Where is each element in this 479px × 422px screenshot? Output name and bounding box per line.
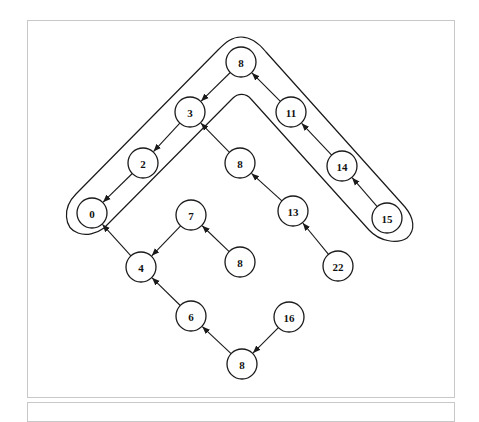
tree-node: 22 (323, 251, 353, 281)
edge-arrow (352, 178, 377, 207)
edge-arrow (302, 123, 332, 155)
edge-arrow (202, 226, 229, 252)
edge-arrow (251, 173, 281, 201)
tree-node: 8 (225, 247, 255, 277)
node-label: 13 (288, 206, 300, 218)
node-label: 4 (138, 262, 144, 274)
tree-node: 2 (128, 148, 158, 178)
tree-node: 4 (126, 252, 156, 282)
node-label: 8 (237, 257, 243, 269)
tree-node: 16 (274, 302, 304, 332)
tree-node: 13 (278, 196, 308, 226)
node-label: 8 (239, 359, 245, 371)
tree-node: 6 (176, 301, 206, 331)
node-label: 11 (286, 107, 296, 119)
node-label: 16 (284, 312, 296, 324)
tree-node: 8 (226, 47, 256, 77)
node-label: 8 (237, 158, 243, 170)
edge-arrow (202, 327, 231, 354)
edge-arrow (253, 328, 278, 353)
node-label: 0 (89, 208, 95, 220)
edge-arrow (102, 224, 131, 255)
edge-arrow (152, 226, 181, 256)
node-label: 3 (187, 107, 193, 119)
tree-node: 3 (175, 97, 205, 127)
tree-node: 11 (276, 97, 306, 127)
node-label: 6 (188, 311, 194, 323)
node-label: 7 (188, 210, 194, 222)
edge-arrow (252, 73, 280, 101)
edge-arrow (303, 223, 329, 254)
tree-node: 15 (372, 203, 402, 233)
edge-arrow (154, 123, 180, 152)
node-label: 8 (238, 57, 244, 69)
edges-layer (102, 73, 377, 354)
node-label: 14 (337, 161, 349, 173)
tree-node: 8 (225, 148, 255, 178)
tree-node: 14 (327, 151, 357, 181)
edge-arrow (103, 174, 132, 203)
node-label: 15 (382, 213, 394, 225)
edge-arrow (201, 123, 230, 152)
edge-arrow (201, 73, 230, 102)
node-label: 2 (140, 158, 146, 170)
edge-arrow (152, 278, 180, 306)
tree-node: 0 (77, 198, 107, 228)
node-label: 22 (333, 261, 345, 273)
tree-node: 7 (176, 200, 206, 230)
tree-node: 8 (227, 349, 257, 379)
